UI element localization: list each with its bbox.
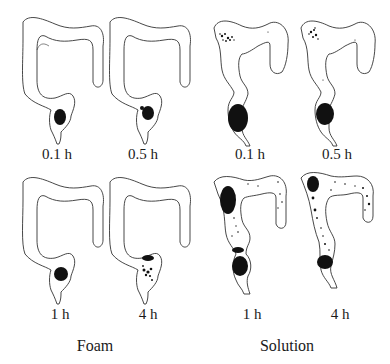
- colon-outline-icon: [102, 170, 192, 310]
- group-label-foam: Foam: [45, 337, 145, 355]
- colon-outline-icon: [102, 10, 192, 150]
- colon-outline-icon: [15, 10, 105, 150]
- colon-outline-icon: [208, 170, 298, 310]
- foam-panel-1h: [15, 170, 105, 310]
- colon-outline-icon: [295, 10, 385, 150]
- foam-panel-0-1h: [15, 10, 105, 150]
- foam-panel-0-5h: [102, 10, 192, 150]
- time-label: 0.5 h: [307, 146, 367, 162]
- time-label: 1 h: [30, 306, 90, 322]
- solution-panel-4h: [295, 170, 385, 310]
- time-label: 4 h: [118, 306, 178, 322]
- foam-panel-4h: [102, 170, 192, 310]
- time-label: 0.5 h: [113, 146, 173, 162]
- solution-panel-0-1h: [208, 10, 298, 150]
- time-label: 1 h: [222, 306, 282, 322]
- group-label-solution: Solution: [237, 337, 337, 355]
- time-label: 0.1 h: [27, 146, 87, 162]
- time-label: 4 h: [310, 306, 370, 322]
- colon-outline-icon: [208, 10, 298, 150]
- time-label: 0.1 h: [220, 146, 280, 162]
- colon-outline-icon: [15, 170, 105, 310]
- colon-outline-icon: [295, 170, 385, 310]
- solution-panel-1h: [208, 170, 298, 310]
- solution-panel-0-5h: [295, 10, 385, 150]
